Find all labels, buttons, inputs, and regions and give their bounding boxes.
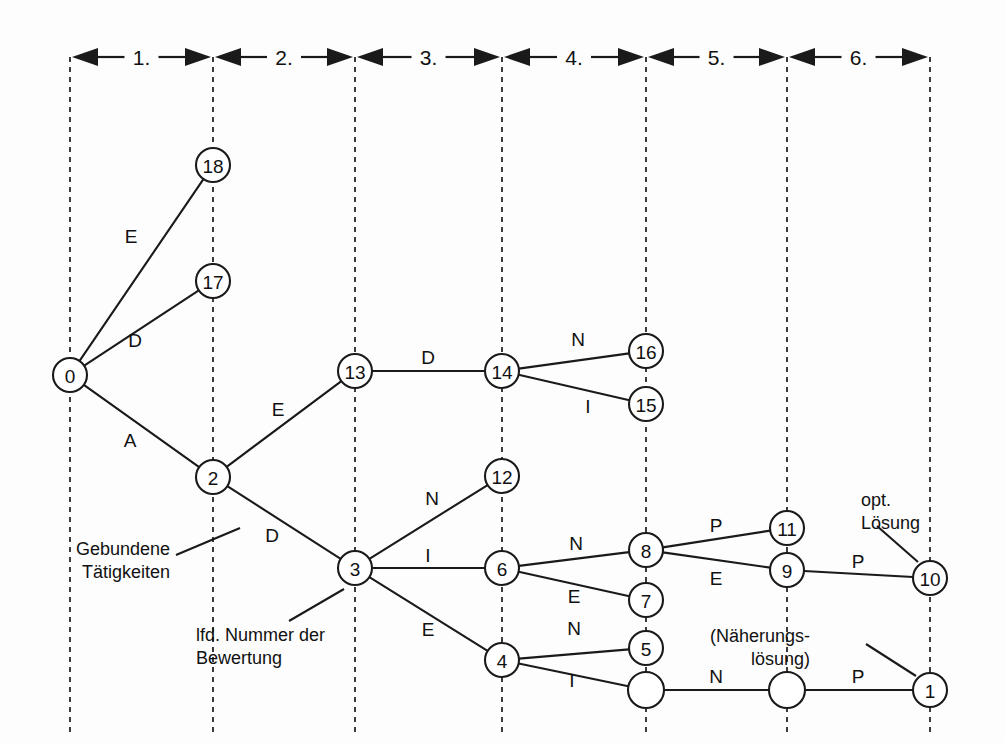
node-11[interactable]: 11 bbox=[770, 511, 804, 545]
leader-lfd-nummer bbox=[289, 589, 344, 621]
edge-n14-n16 bbox=[519, 353, 629, 368]
node-label-4: 4 bbox=[497, 651, 508, 672]
node-6[interactable]: 6 bbox=[485, 551, 519, 585]
edge-label-n3-n12: N bbox=[425, 488, 439, 509]
span-arrow-right-3 bbox=[474, 48, 500, 66]
edge-label-n6-n7: E bbox=[568, 586, 581, 607]
annotation-lfd-nummer-line-2: Bewertung bbox=[196, 648, 282, 668]
edge-n9-n10 bbox=[804, 571, 913, 577]
node-label-5: 5 bbox=[641, 639, 652, 660]
tree-search-diagram: 1.2.3.4.5.6. EDAEDDNINIENENIPEPNP 018172… bbox=[0, 0, 1005, 743]
node-15[interactable]: 15 bbox=[629, 387, 663, 421]
node-17[interactable]: 17 bbox=[196, 264, 230, 298]
node-label-6: 6 bbox=[497, 559, 508, 580]
node-label-15: 15 bbox=[635, 395, 656, 416]
node-label-9: 9 bbox=[782, 561, 793, 582]
stage-label-2: 2. bbox=[275, 46, 293, 69]
span-arrow-left-1 bbox=[72, 48, 98, 66]
edge-n6-n8 bbox=[519, 552, 629, 566]
node-label-2: 2 bbox=[208, 468, 219, 489]
edge-label-nA-nB: N bbox=[709, 666, 723, 687]
edge-label-n3-n6: I bbox=[425, 545, 430, 566]
stage-label-4: 4. bbox=[565, 46, 583, 69]
annotation-naeherungsloesung-line-1: (Näherungs- bbox=[710, 626, 810, 646]
span-arrow-left-6 bbox=[789, 48, 815, 66]
node-13[interactable]: 13 bbox=[338, 354, 372, 388]
node-3[interactable]: 3 bbox=[338, 551, 372, 585]
annotation-gebundene: GebundeneTätigkeiten bbox=[76, 539, 170, 582]
stage-label-3: 3. bbox=[420, 46, 438, 69]
edge-label-n14-n16: N bbox=[571, 329, 585, 350]
annotation-opt-loesung-line-1: opt. bbox=[861, 490, 891, 510]
edge-label-n3-n4: E bbox=[422, 619, 435, 640]
annotation-opt-loesung: opt.Lösung bbox=[861, 490, 920, 533]
node-12[interactable]: 12 bbox=[485, 459, 519, 493]
edge-label-n0-n18: E bbox=[125, 226, 138, 247]
edge-label-n8-n9: E bbox=[710, 568, 723, 589]
node-label-8: 8 bbox=[641, 541, 652, 562]
edge-n2-n13 bbox=[227, 381, 342, 467]
span-arrow-right-1 bbox=[185, 48, 211, 66]
node-circle-nB bbox=[769, 672, 805, 708]
edge-label-n8-n11: P bbox=[710, 515, 723, 536]
node-label-3: 3 bbox=[350, 559, 361, 580]
node-label-1: 1 bbox=[925, 681, 936, 702]
node-5[interactable]: 5 bbox=[629, 631, 663, 665]
node-9[interactable]: 9 bbox=[770, 553, 804, 587]
node-label-16: 16 bbox=[635, 342, 656, 363]
node-label-13: 13 bbox=[344, 362, 365, 383]
node-nB[interactable] bbox=[769, 672, 805, 708]
annotation-naeherungsloesung: (Näherungs-lösung) bbox=[710, 626, 810, 669]
node-0[interactable]: 0 bbox=[53, 358, 87, 392]
stage-span-arrows: 1.2.3.4.5.6. bbox=[72, 46, 928, 69]
node-label-11: 11 bbox=[777, 519, 797, 540]
edge-n3-n4 bbox=[369, 577, 487, 651]
edge-labels: EDAEDDNINIENENIPEPNP bbox=[124, 226, 865, 691]
stage-label-5: 5. bbox=[708, 46, 726, 69]
node-18[interactable]: 18 bbox=[196, 148, 230, 182]
node-nA[interactable] bbox=[628, 672, 664, 708]
node-16[interactable]: 16 bbox=[629, 334, 663, 368]
edge-label-n6-n8: N bbox=[569, 533, 583, 554]
leader-gebundene bbox=[176, 528, 240, 555]
span-arrow-right-5 bbox=[759, 48, 785, 66]
node-7[interactable]: 7 bbox=[629, 583, 663, 617]
span-arrow-right-2 bbox=[327, 48, 353, 66]
span-arrow-right-4 bbox=[618, 48, 644, 66]
span-arrow-right-6 bbox=[902, 48, 928, 66]
annotation-gebundene-line-1: Gebundene bbox=[76, 539, 170, 559]
node-14[interactable]: 14 bbox=[485, 354, 519, 388]
node-8[interactable]: 8 bbox=[629, 533, 663, 567]
annotation-opt-loesung-line-2: Lösung bbox=[861, 513, 920, 533]
node-label-17: 17 bbox=[202, 272, 223, 293]
diagram-canvas: 1.2.3.4.5.6. EDAEDDNINIENENIPEPNP 018172… bbox=[0, 0, 1005, 743]
edge-label-n0-n17: D bbox=[128, 330, 142, 351]
edge-n2-n3 bbox=[227, 486, 340, 559]
edge-label-n4-nA: I bbox=[569, 670, 574, 691]
stage-label-6: 6. bbox=[850, 46, 868, 69]
edge-label-n4-n5: N bbox=[567, 618, 581, 639]
node-2[interactable]: 2 bbox=[196, 460, 230, 494]
node-1[interactable]: 1 bbox=[913, 673, 947, 707]
edge-label-nB-n1: P bbox=[852, 666, 865, 687]
edge-label-n14-n15: I bbox=[585, 396, 590, 417]
leader-naeherungsloesung bbox=[866, 644, 916, 676]
edge-label-n2-n13: E bbox=[272, 399, 285, 420]
node-10[interactable]: 10 bbox=[913, 561, 947, 595]
node-label-18: 18 bbox=[202, 156, 223, 177]
annotation-lfd-nummer: lfd. Nummer derBewertung bbox=[196, 625, 325, 668]
edge-label-n13-n14: D bbox=[421, 347, 435, 368]
span-arrow-left-4 bbox=[504, 48, 530, 66]
edge-lines bbox=[80, 179, 913, 690]
edge-n0-n2 bbox=[84, 385, 199, 467]
annotation-naeherungsloesung-line-2: lösung) bbox=[751, 649, 810, 669]
node-4[interactable]: 4 bbox=[485, 643, 519, 677]
edge-label-n9-n10: P bbox=[852, 551, 865, 572]
edge-n4-n5 bbox=[519, 649, 629, 658]
node-label-7: 7 bbox=[641, 591, 652, 612]
node-label-10: 10 bbox=[919, 569, 940, 590]
edge-n8-n9 bbox=[663, 552, 770, 567]
annotation-lfd-nummer-line-1: lfd. Nummer der bbox=[196, 625, 325, 645]
span-arrow-left-3 bbox=[357, 48, 383, 66]
annotation-gebundene-line-2: Tätigkeiten bbox=[82, 562, 170, 582]
